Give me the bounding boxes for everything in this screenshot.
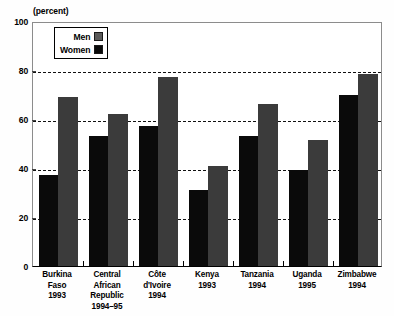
x-axis-label-line: 1993 [32,291,82,302]
bar-women [158,77,178,266]
y-tick-label-60: 60 [2,115,28,125]
x-axis-label-line: 1994 [132,291,182,302]
x-axis-label: Tanzania1994 [232,270,282,291]
bars-group [33,23,381,266]
legend-label-women: Women [60,45,90,55]
category-separator [283,261,284,266]
x-axis-label: BurkinaFaso1993 [32,270,82,302]
x-axis-label-line: Uganda [282,270,332,281]
category-separator [333,261,334,266]
y-tick-mark-80 [32,71,36,72]
x-axis-label: Kenya1993 [182,270,232,291]
bar-group [139,23,178,266]
x-axis-label-line: Burkina [32,270,82,281]
bar-group [289,23,328,266]
y-tick-label-80: 80 [2,66,28,76]
x-axis-label: Côted'Ivoire1994 [132,270,182,302]
y-tick-mark-20 [32,218,36,219]
category-separator [83,261,84,266]
x-axis-label-line: Tanzania [232,270,282,281]
y-tick-label-100: 100 [2,17,28,27]
bar-women [358,74,378,266]
legend-item-men: Men [60,30,103,43]
bar-men [39,175,59,266]
x-axis-label-line: Faso [32,281,82,292]
legend-swatch-women-icon [94,45,103,54]
x-axis-label-line: Republic [82,291,132,302]
x-axis-label-line: Central [82,270,132,281]
x-axis-label-line: 1994 [332,281,382,292]
category-separator [183,261,184,266]
legend-swatch-men-icon [94,32,103,41]
y-tick-label-0: 0 [2,262,28,272]
bar-chart: (percent) 020406080100 Men Women Burkina… [0,0,394,316]
y-axis-unit-label: (percent) [33,6,68,16]
bar-group [89,23,128,266]
x-axis-label-line: 1994–95 [82,302,132,313]
bar-women [108,114,128,266]
bar-men [239,136,259,266]
chart-legend: Men Women [54,27,108,59]
x-axis-label: Uganda1995 [282,270,332,291]
bar-men [289,170,309,266]
bar-women [58,97,78,266]
x-axis-labels: BurkinaFaso1993CentralAfricanRepublic199… [32,270,382,316]
bar-group [239,23,278,266]
bar-men [89,136,109,266]
x-axis-label: Zimbabwe1994 [332,270,382,291]
bar-group [39,23,78,266]
y-tick-label-40: 40 [2,164,28,174]
bar-group [339,23,378,266]
x-axis-label-line: Kenya [182,270,232,281]
x-axis-label-line: 1993 [182,281,232,292]
bar-men [139,126,159,266]
bar-women [208,166,228,266]
x-axis-label-line: Zimbabwe [332,270,382,281]
bar-women [258,104,278,266]
category-separator [233,261,234,266]
bar-group [189,23,228,266]
x-axis-label-line: 1994 [232,281,282,292]
x-axis-label-line: d'Ivoire [132,281,182,292]
bar-men [189,190,209,266]
x-axis-label-line: 1995 [282,281,332,292]
x-axis-label-line: African [82,281,132,292]
legend-item-women: Women [60,43,103,56]
bar-women [308,140,328,266]
y-tick-mark-60 [32,120,36,121]
bar-men [339,95,359,267]
y-tick-label-20: 20 [2,213,28,223]
x-axis-label: CentralAfricanRepublic1994–95 [82,270,132,312]
x-axis-label-line: Côte [132,270,182,281]
y-tick-mark-40 [32,169,36,170]
category-separator [133,261,134,266]
legend-label-men: Men [74,32,91,42]
